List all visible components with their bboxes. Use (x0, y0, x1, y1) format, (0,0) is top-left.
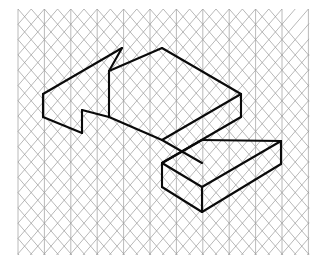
paper-background (0, 0, 321, 264)
isometric-svg (0, 0, 321, 264)
isometric-drawing-canvas (0, 0, 321, 264)
shape-edge-step-top-back (202, 140, 281, 141)
